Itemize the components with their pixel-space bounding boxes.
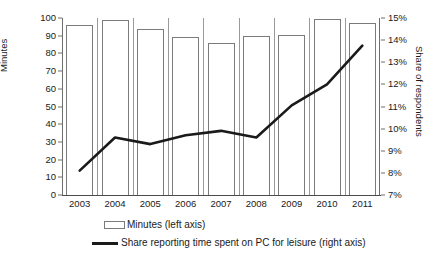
legend-bar-swatch-icon [104, 221, 125, 229]
y-axis-right-tick-mark [381, 195, 385, 196]
x-axis-tick-label: 2005 [140, 198, 161, 209]
y-axis-left-tick-label: 10 [45, 173, 56, 183]
y-axis-left-title: Minutes [0, 39, 9, 72]
legend-label-minutes: Minutes (left axis) [127, 219, 205, 231]
y-axis-right-tick-label: 15% [388, 13, 407, 23]
y-axis-left-tick-label: 80 [45, 49, 56, 59]
y-axis-right-tick-mark [381, 128, 385, 129]
x-axis-labels: 200320042005200620072008200920102011 [62, 198, 381, 214]
chart-container: 0102030405060708090100 Minutes 7%8%9%10%… [0, 0, 437, 264]
y-axis-right-tick-mark [381, 18, 385, 19]
y-axis-right-tick-mark [381, 150, 385, 151]
y-axis-right-tick-mark [381, 106, 385, 107]
line-series-share [62, 18, 381, 196]
y-axis-right-tick-label: 13% [388, 58, 407, 68]
x-axis-tick-label: 2008 [246, 198, 267, 209]
x-axis-tick-label: 2010 [316, 198, 337, 209]
y-axis-right-tick-mark [381, 172, 385, 173]
y-axis-left-tick-label: 70 [45, 66, 56, 76]
y-axis-right-title: Share of respondents [414, 46, 425, 137]
y-axis-right-tick-label: 8% [388, 168, 402, 178]
x-axis-tick-label: 2007 [210, 198, 231, 209]
y-axis-left-tick-label: 90 [45, 31, 56, 41]
y-axis-right-tick-label: 14% [388, 35, 407, 45]
y-axis-right-tick-label: 12% [388, 80, 407, 90]
y-axis-left-tick-label: 50 [45, 102, 56, 112]
x-axis-tick-label: 2003 [69, 198, 90, 209]
y-axis-left-tick-label: 40 [45, 119, 56, 129]
y-axis-right-tick-label: 11% [388, 102, 406, 112]
x-axis-tick-label: 2006 [175, 198, 196, 209]
x-axis-tick-label: 2004 [104, 198, 125, 209]
y-axis-right-tick-label: 10% [388, 124, 407, 134]
legend-item-share: Share reporting time spent on PC for lei… [62, 234, 422, 252]
y-axis-right-tick-mark [381, 40, 385, 41]
y-axis-left-tick-label: 100 [40, 13, 56, 23]
x-axis-tick-label: 2011 [352, 198, 372, 209]
y-axis-left-tick-label: 60 [45, 84, 56, 94]
chart-legend: Minutes (left axis) Share reporting time… [62, 216, 422, 252]
y-axis-right-tick-mark [381, 84, 385, 85]
y-axis-left-tick-label: 0 [51, 190, 56, 200]
line-path [80, 46, 363, 171]
legend-label-share: Share reporting time spent on PC for lei… [121, 237, 366, 249]
y-axis-left-tick-label: 30 [45, 137, 56, 147]
y-axis-right-tick-label: 9% [388, 146, 402, 156]
y-axis-right: 7%8%9%10%11%12%13%14%15% [381, 18, 417, 195]
legend-line-swatch-icon [92, 242, 118, 245]
y-axis-right-tick-label: 7% [388, 190, 402, 200]
y-axis-right-tick-mark [381, 62, 385, 63]
x-axis-tick-label: 2009 [281, 198, 302, 209]
y-axis-left: 0102030405060708090100 [30, 18, 62, 195]
y-axis-left-tick-label: 20 [45, 155, 56, 165]
legend-item-minutes: Minutes (left axis) [62, 216, 422, 234]
